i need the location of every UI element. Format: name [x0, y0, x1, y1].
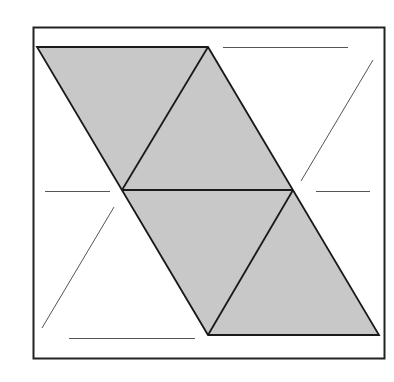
guide-bottom-left-diagonal: [42, 207, 114, 328]
guide-top-right-diagonal: [301, 60, 373, 181]
diagram-canvas: [0, 0, 394, 382]
